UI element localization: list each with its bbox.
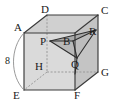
measurement-label-group: 8 [5, 55, 10, 66]
measure-arc-8 [14, 33, 25, 90]
vertex-label-F: F [74, 89, 80, 101]
measure-label-edge-length: 8 [5, 55, 10, 66]
vertex-label-P: P [40, 35, 46, 47]
vertex-label-R: R [89, 25, 97, 37]
vertex-label-B: B [63, 35, 70, 47]
vertex-label-D: D [41, 3, 49, 15]
cube-diagram-figure: A D C P B R H Q G E F 8 [0, 0, 117, 109]
vertex-label-Q: Q [71, 58, 79, 70]
vertex-label-E: E [13, 89, 20, 101]
vertex-label-C: C [101, 4, 108, 16]
vertex-label-G: G [101, 66, 109, 78]
vertex-label-H: H [35, 60, 43, 72]
cube-diagram-svg: A D C P B R H Q G E F 8 [0, 0, 117, 109]
vertex-label-A: A [14, 21, 22, 33]
